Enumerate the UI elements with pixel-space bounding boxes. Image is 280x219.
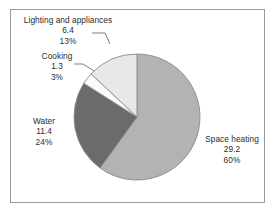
pie-label-space-heating-name: Space heating xyxy=(196,134,268,144)
pie-label-water: Water 11.4 24% xyxy=(19,116,69,147)
pie-label-lighting-name: Lighting and appliances xyxy=(17,15,119,25)
pie-label-cooking-name: Cooking xyxy=(26,51,88,61)
pie-label-lighting-value: 6.4 xyxy=(17,25,119,35)
pie-label-lighting-percent: 13% xyxy=(17,36,119,46)
pie-label-water-name: Water xyxy=(19,116,69,126)
pie-label-water-percent: 24% xyxy=(19,137,69,147)
pie-label-space-heating-percent: 60% xyxy=(196,155,268,165)
pie-label-water-value: 11.4 xyxy=(19,126,69,136)
pie-label-lighting-and-appliances: Lighting and appliances 6.4 13% xyxy=(17,15,119,46)
pie-label-space-heating: Space heating 29.2 60% xyxy=(196,134,268,165)
pie-label-space-heating-value: 29.2 xyxy=(196,144,268,154)
pie-label-cooking-percent: 3% xyxy=(26,72,88,82)
pie-label-cooking-value: 1.3 xyxy=(26,61,88,71)
pie-label-cooking: Cooking 1.3 3% xyxy=(26,51,88,82)
